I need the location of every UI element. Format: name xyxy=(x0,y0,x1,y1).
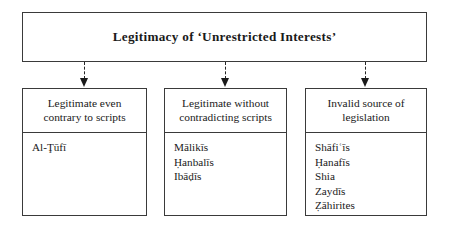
node-header: Invalid source of legislation xyxy=(306,89,426,133)
node-box-invalid-source: Invalid source of legislation Shāfiʿīs Ḥ… xyxy=(305,88,427,216)
list-item: Ẓāhirites xyxy=(315,198,426,213)
node-body: Shāfiʿīs Ḥanafīs Shia Zaydīs Ẓāhirites xyxy=(306,133,426,215)
node-header: Legitimate even contrary to scripts xyxy=(23,89,146,133)
diagram-title: Legitimacy of ‘Unrestricted Interests’ xyxy=(113,29,337,45)
node-body: Al-Ţūfī xyxy=(23,133,146,215)
node-header: Legitimate without contradicting scripts xyxy=(165,89,286,133)
list-item: Shāfiʿīs xyxy=(315,140,426,155)
node-box-legitimate-even-contrary: Legitimate even contrary to scripts Al-Ţ… xyxy=(22,88,147,216)
arrowhead-down-icon xyxy=(361,78,369,87)
node-header-line-1: Legitimate even xyxy=(48,97,122,109)
node-item-list: Mālikīs Ḥanbalīs Ibāḍīs xyxy=(174,140,286,184)
list-item: Shia xyxy=(315,169,426,184)
connector-arrow-3 xyxy=(360,62,371,89)
node-header-line-1: Legitimate without xyxy=(182,97,269,109)
connector-arrow-2 xyxy=(220,62,231,89)
node-header-line-1: Invalid source of xyxy=(327,97,404,109)
node-header-line-2: contrary to scripts xyxy=(43,111,125,123)
connector-arrow-1 xyxy=(79,62,90,89)
dashed-line-icon xyxy=(225,62,226,79)
diagram-canvas: Legitimacy of ‘Unrestricted Interests’ L… xyxy=(0,0,449,235)
arrowhead-down-icon xyxy=(80,78,88,87)
node-header-text: Invalid source of legislation xyxy=(327,97,404,125)
dashed-line-icon xyxy=(84,62,85,79)
list-item: Zaydīs xyxy=(315,184,426,199)
node-header-line-2: contradicting scripts xyxy=(179,111,272,123)
list-item: Ḥanafīs xyxy=(315,155,426,170)
node-item-list: Al-Ţūfī xyxy=(32,140,146,155)
list-item: Mālikīs xyxy=(174,140,286,155)
list-item: Al-Ţūfī xyxy=(32,140,146,155)
dashed-line-icon xyxy=(365,62,366,79)
node-header-text: Legitimate even contrary to scripts xyxy=(43,97,125,125)
node-item-list: Shāfiʿīs Ḥanafīs Shia Zaydīs Ẓāhirites xyxy=(315,140,426,213)
node-box-legitimate-without-contradicting: Legitimate without contradicting scripts… xyxy=(164,88,287,216)
diagram-title-box: Legitimacy of ‘Unrestricted Interests’ xyxy=(22,12,427,62)
list-item: Ḥanbalīs xyxy=(174,155,286,170)
arrowhead-down-icon xyxy=(221,78,229,87)
list-item: Ibāḍīs xyxy=(174,169,286,184)
node-header-text: Legitimate without contradicting scripts xyxy=(179,97,272,125)
node-body: Mālikīs Ḥanbalīs Ibāḍīs xyxy=(165,133,286,215)
node-header-line-2: legislation xyxy=(342,111,389,123)
